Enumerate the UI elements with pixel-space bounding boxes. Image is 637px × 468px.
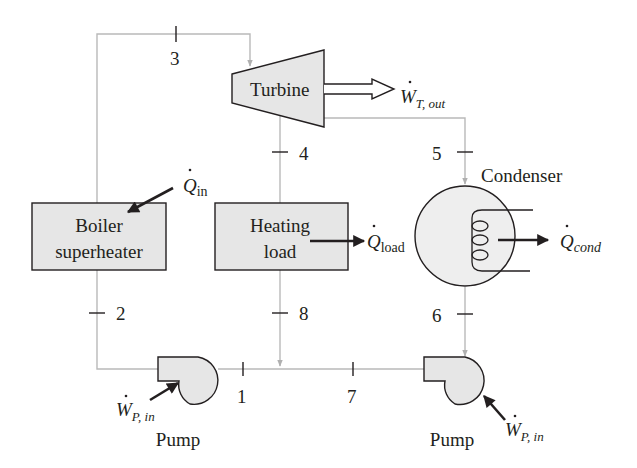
turbine-label: Turbine [250,79,309,100]
boiler-label-line1: Boiler [75,215,123,236]
pipe-pump-to-boiler [97,270,158,369]
condenser-label: Condenser [481,165,563,186]
pump-right-label: Pump [430,429,474,450]
state-5-label: 5 [432,143,442,164]
turbine-work-arrow: WT, out [324,79,446,111]
heat-in-arrow: Qin [128,169,208,212]
pipe-turbine-to-condenser [324,118,465,184]
turbine-work-label: WT, out [400,86,446,111]
boiler-superheater: Boiler superheater [32,203,166,270]
state-7-label: 7 [347,386,357,407]
turbine: Turbine [232,50,324,127]
boiler-label-line2: superheater [55,241,143,262]
state-3-label: 3 [170,48,180,69]
heating-load-label-line2: load [264,241,297,262]
state-8-label: 8 [299,303,309,324]
pump-right: WP, in Pump [424,357,544,450]
pump-left-label: Pump [156,429,200,450]
heat-load-label: Qload [367,231,405,255]
state-6-label: 6 [432,305,442,326]
heating-load-label-line1: Heating [250,215,311,236]
pump-left: WP, in Pump [116,357,218,450]
heat-cond-label: Qcond [560,231,602,255]
heating-load: Heating load [215,203,348,270]
condenser: Condenser [415,165,563,286]
state-2-label: 2 [116,303,126,324]
state-1-label: 1 [237,386,247,407]
pump-right-work-label: WP, in [505,419,544,444]
cogeneration-cycle-diagram: 3 4 5 2 8 6 1 7 Turbine WT, out Boiler s… [0,0,637,468]
heat-in-label: Qin [183,175,208,199]
pump-left-work-label: WP, in [116,399,155,424]
state-4-label: 4 [299,143,309,164]
